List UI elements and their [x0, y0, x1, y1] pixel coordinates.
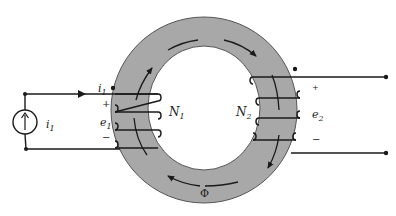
toroid-transformer-diagram: i1 i1 + e1 − N1 + e2 − N2 [0, 0, 396, 216]
secondary-plus-sign: + [312, 83, 319, 92]
source-current-label: i1 [46, 118, 55, 133]
primary-turns-label: N1 [168, 105, 185, 121]
primary-polarity-dot [111, 86, 115, 90]
node-dot [24, 147, 28, 151]
node-dot [23, 92, 27, 96]
terminal-dot [384, 151, 388, 155]
terminal-dot [384, 75, 388, 79]
secondary-minus-sign: − [312, 134, 320, 145]
toroid-core [111, 17, 297, 203]
flux-label: Φ [200, 187, 209, 200]
primary-voltage-label: e1 [100, 116, 112, 131]
primary-minus-sign: − [102, 132, 110, 143]
secondary-turns-label: N2 [235, 105, 252, 121]
primary-plus-sign: + [102, 98, 110, 109]
current-direction-arrow [78, 90, 86, 98]
primary-current-label: i1 [98, 82, 107, 97]
secondary-voltage-label: e2 [312, 108, 324, 123]
secondary-polarity-dot [293, 67, 297, 71]
current-source [13, 110, 37, 134]
